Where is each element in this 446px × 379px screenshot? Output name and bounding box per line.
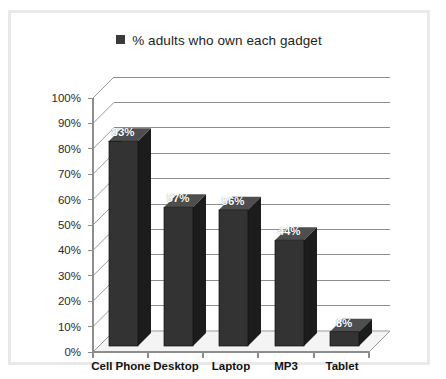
y-tick-60: 60% (35, 194, 81, 206)
y-tick-100: 100% (35, 92, 81, 104)
x-label-laptop: Laptop (212, 360, 250, 372)
y-tick-90: 90% (35, 117, 81, 129)
bar-cell-phone (109, 128, 151, 346)
y-tick-30: 30% (35, 270, 81, 282)
bar-value-tablet: 8% (336, 317, 353, 329)
bar-desktop (164, 194, 206, 346)
y-tick-40: 40% (35, 244, 81, 256)
bar-value-mp3: 44% (277, 225, 300, 237)
y-tick-80: 80% (35, 143, 81, 155)
chart-frame: % adults who own each gadget (8, 10, 430, 365)
y-axis-labels: 100% 90% 80% 70% 60% 50% 40% 30% 20% 10%… (33, 13, 81, 362)
x-label-tablet: Tablet (325, 360, 358, 372)
y-tick-10: 10% (35, 321, 81, 333)
x-axis-labels: Cell Phone Desktop Laptop MP3 Tablet (11, 343, 427, 365)
bar-mp3 (275, 227, 317, 346)
bar-laptop (219, 197, 261, 346)
chart-canvas: % adults who own each gadget (11, 13, 427, 362)
x-label-mp3: MP3 (274, 360, 298, 372)
y-axis-ticks (88, 98, 93, 352)
y-tick-70: 70% (35, 168, 81, 180)
bar-value-cell-phone: 83% (111, 126, 134, 138)
x-label-desktop: Desktop (153, 360, 198, 372)
y-tick-50: 50% (35, 219, 81, 231)
y-tick-20: 20% (35, 295, 81, 307)
x-label-cell-phone: Cell Phone (91, 360, 150, 372)
bar-value-desktop: 57% (166, 192, 189, 204)
bar-value-laptop: 56% (221, 195, 244, 207)
